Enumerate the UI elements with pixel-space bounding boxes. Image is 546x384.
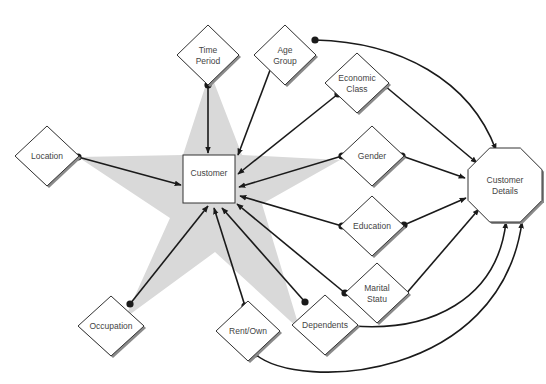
node-customer-details[interactable]: CustomerDetails: [468, 148, 544, 224]
customer-details-label: Customer: [487, 175, 524, 185]
node-label: Statu: [367, 294, 387, 304]
edge-gender-to-customer-details: [402, 156, 465, 178]
node-time-period[interactable]: TimePeriod: [177, 25, 241, 87]
node-marital-status[interactable]: MaritalStatu: [345, 263, 411, 325]
node-label: Age: [277, 45, 292, 55]
customer-label: Customer: [191, 168, 228, 178]
node-economic-class[interactable]: EconomicClass: [325, 53, 391, 115]
node-label: Time: [199, 45, 218, 55]
node-customer[interactable]: Customer: [183, 155, 235, 203]
node-education[interactable]: Education: [340, 196, 406, 258]
customer-dimension-diagram: TimePeriodAgeGroupEconomicClassLocationG…: [0, 0, 546, 384]
node-location[interactable]: Location: [15, 126, 81, 188]
node-rent-own[interactable]: Rent/Own: [216, 301, 282, 363]
connector-dot: [311, 36, 318, 43]
edge-marital-status-to-customer-details: [405, 209, 479, 295]
edge-age-group-to-customer: [238, 65, 272, 155]
node-gender[interactable]: Gender: [340, 126, 406, 188]
node-age-group[interactable]: AgeGroup: [254, 25, 318, 87]
octagon-shape: [468, 148, 542, 222]
customer-box: [183, 155, 235, 203]
node-label: Rent/Own: [229, 326, 267, 336]
node-label: Marital: [364, 283, 390, 293]
node-label: Location: [31, 151, 63, 161]
node-label: Occupation: [90, 321, 133, 331]
connector-dot: [301, 298, 308, 305]
edge-education-to-customer-details: [404, 198, 466, 225]
node-label: Group: [273, 56, 297, 66]
node-dependents[interactable]: Dependents: [292, 295, 360, 357]
connector-dot: [126, 300, 133, 307]
node-label: Period: [196, 56, 221, 66]
node-label: Education: [353, 221, 391, 231]
node-label: Economic: [338, 73, 376, 83]
node-label: Gender: [358, 151, 387, 161]
node-label: Class: [346, 84, 367, 94]
customer-details-label: Details: [492, 186, 518, 196]
node-label: Dependents: [302, 320, 348, 330]
